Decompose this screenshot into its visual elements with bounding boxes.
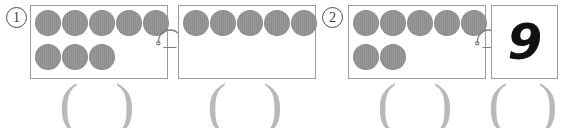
paren-open: ( xyxy=(487,84,509,128)
paren-close: ) xyxy=(262,84,284,128)
dot xyxy=(62,10,88,36)
dot xyxy=(116,10,142,36)
dot-row-bottom xyxy=(35,44,115,70)
dot xyxy=(353,10,379,36)
dot xyxy=(353,44,379,70)
dot xyxy=(380,44,406,70)
dot xyxy=(183,10,209,36)
dot xyxy=(380,10,406,36)
dot xyxy=(35,44,61,70)
answer-slot-4[interactable]: ( ) xyxy=(487,84,559,128)
answer-slot-3[interactable]: ( ) xyxy=(376,84,454,128)
dot-box-1a[interactable] xyxy=(30,5,168,79)
dot xyxy=(89,10,115,36)
answer-slot-2[interactable]: ( ) xyxy=(206,84,284,128)
dot xyxy=(407,10,433,36)
dot xyxy=(62,44,88,70)
problem-number-2: 2 xyxy=(322,7,343,28)
dot-row-top xyxy=(353,10,487,36)
dot-row-top xyxy=(35,10,169,36)
dot xyxy=(89,44,115,70)
dot xyxy=(237,10,263,36)
dot xyxy=(35,10,61,36)
dot-row-bottom xyxy=(353,44,406,70)
dot-box-2a[interactable] xyxy=(348,5,486,79)
problem-number-1: 1 xyxy=(6,7,27,28)
handwritten-answer-9: 9 xyxy=(491,5,558,79)
dot xyxy=(210,10,236,36)
dot xyxy=(264,10,290,36)
worksheet-sheet: 1 2 xyxy=(0,0,566,128)
paren-open: ( xyxy=(58,84,80,128)
paren-close: ) xyxy=(537,84,559,128)
paren-close: ) xyxy=(114,84,136,128)
paren-open: ( xyxy=(206,84,228,128)
dot xyxy=(434,10,460,36)
dot xyxy=(291,10,317,36)
paren-open: ( xyxy=(376,84,398,128)
dot-box-1b[interactable] xyxy=(178,5,316,79)
paren-close: ) xyxy=(432,84,454,128)
dot-row-top xyxy=(183,10,317,36)
answer-slot-1[interactable]: ( ) xyxy=(58,84,136,128)
